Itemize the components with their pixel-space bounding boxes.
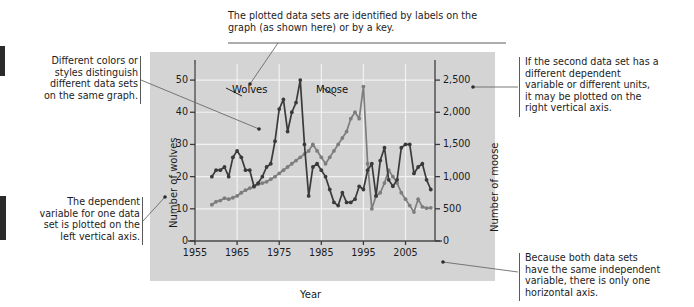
series-label-moose: Moose (316, 84, 348, 95)
tick-label: 1965 (217, 247, 257, 258)
tick-label: 1955 (175, 247, 215, 258)
tick-label: 1975 (259, 247, 299, 258)
x-axis-tick-labels: 195519651975198519952005 (0, 0, 694, 307)
series-label-wolves: Wolves (232, 84, 267, 95)
right-axis-title: Number of moose (489, 142, 500, 232)
tick-label: 1995 (343, 247, 383, 258)
left-axis-title: Number of wolves (168, 137, 179, 228)
tick-label: 1985 (301, 247, 341, 258)
x-axis-title: Year (300, 289, 321, 300)
figure-stage: The plotted data sets are identified by … (0, 0, 694, 307)
tick-label: 2005 (386, 247, 426, 258)
